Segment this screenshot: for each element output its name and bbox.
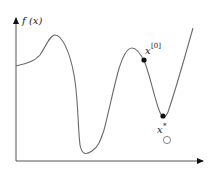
start-point-superscript: [0] [151,42,161,50]
minimum-point-marker [160,113,165,118]
function-curve [16,28,193,153]
y-axis-label: f (x) [21,15,42,26]
start-point-marker [141,57,146,62]
function-diagram: f (x) x [0] x * [0,0,215,170]
optimum-hollow-marker [163,136,170,143]
minimum-superscript: * [163,122,167,130]
